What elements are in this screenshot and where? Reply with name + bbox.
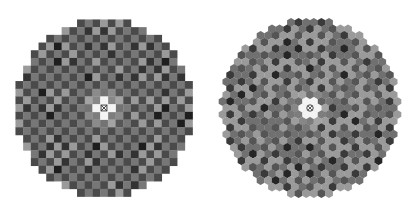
grid-cell: [77, 189, 85, 197]
grid-cell: [123, 181, 131, 189]
grid-cell: [169, 66, 177, 74]
grid-cell: [146, 81, 154, 89]
grid-cell: [100, 73, 108, 81]
grid-cell: [123, 150, 131, 158]
grid-cell: [100, 127, 108, 135]
grid-cell: [46, 58, 54, 66]
grid-cell: [162, 104, 170, 112]
grid-cell: [46, 135, 54, 143]
grid-cell: [116, 181, 124, 189]
grid-cell: [131, 66, 139, 74]
grid-cell: [108, 81, 116, 89]
grid-cell: [85, 73, 93, 81]
grid-cell: [77, 73, 85, 81]
grid-cell: [62, 104, 70, 112]
grid-cell: [54, 158, 62, 166]
grid-cell: [131, 73, 139, 81]
square-grid-image: [0, 0, 206, 211]
grid-cell: [154, 173, 162, 181]
grid-cell: [131, 89, 139, 97]
grid-cell: [116, 104, 124, 112]
grid-cell: [100, 143, 108, 151]
grid-cell: [162, 89, 170, 97]
grid-cell: [62, 143, 70, 151]
grid-cell: [162, 150, 170, 158]
grid-cell: [116, 66, 124, 74]
grid-cell: [100, 19, 108, 27]
grid-cell: [15, 89, 23, 97]
grid-cell: [185, 81, 193, 89]
grid-cell: [62, 27, 70, 35]
grid-cell: [139, 181, 147, 189]
grid-cell: [131, 81, 139, 89]
grid-cell: [139, 150, 147, 158]
grid-cell: [154, 58, 162, 66]
grid-cell: [69, 135, 77, 143]
grid-cell: [23, 81, 31, 89]
grid-cell: [100, 50, 108, 58]
grid-cell: [185, 127, 193, 135]
grid-cell: [92, 50, 100, 58]
grid-cell: [108, 120, 116, 128]
grid-cell: [77, 50, 85, 58]
grid-cell: [69, 127, 77, 135]
grid-cell: [177, 104, 185, 112]
grid-cell: [39, 43, 47, 51]
grid-cell: [177, 120, 185, 128]
grid-cell: [31, 73, 39, 81]
grid-cell: [54, 104, 62, 112]
grid-cell: [162, 127, 170, 135]
grid-cell: [69, 35, 77, 43]
grid-cell: [162, 96, 170, 104]
grid-cell: [46, 81, 54, 89]
grid-cell: [39, 120, 47, 128]
grid-cell: [169, 112, 177, 120]
grid-cell: [146, 73, 154, 81]
grid-cell: [92, 158, 100, 166]
grid-cell: [123, 66, 131, 74]
grid-cell: [123, 50, 131, 58]
grid-cell: [108, 50, 116, 58]
grid-cell: [31, 112, 39, 120]
grid-cell: [162, 120, 170, 128]
grid-cell: [116, 35, 124, 43]
grid-cell: [162, 143, 170, 151]
grid-cell: [123, 27, 131, 35]
grid-cell: [123, 19, 131, 27]
grid-cell: [62, 89, 70, 97]
grid-cell: [146, 35, 154, 43]
grid-cell: [46, 112, 54, 120]
grid-cell: [54, 96, 62, 104]
grid-cell: [54, 127, 62, 135]
grid-cell: [54, 150, 62, 158]
grid-cell: [54, 66, 62, 74]
grid-cell: [85, 96, 93, 104]
grid-cell: [77, 181, 85, 189]
grid-cell: [77, 43, 85, 51]
grid-cell: [100, 27, 108, 35]
grid-cell: [108, 166, 116, 174]
grid-cell: [100, 43, 108, 51]
grid-cell: [54, 35, 62, 43]
grid-cell: [131, 173, 139, 181]
grid-cell: [77, 158, 85, 166]
grid-cell: [146, 120, 154, 128]
grid-cell: [69, 50, 77, 58]
grid-cell: [116, 127, 124, 135]
grid-cell: [131, 96, 139, 104]
grid-cell: [123, 143, 131, 151]
grid-cell: [185, 89, 193, 97]
grid-cell: [85, 181, 93, 189]
grid-cell: [116, 96, 124, 104]
grid-cell: [123, 166, 131, 174]
grid-cell: [108, 112, 116, 120]
grid-cell: [92, 166, 100, 174]
grid-cell: [92, 89, 100, 97]
grid-cell: [92, 112, 100, 120]
grid-cell: [39, 166, 47, 174]
grid-cell: [46, 173, 54, 181]
grid-cell: [69, 158, 77, 166]
grid-cell: [162, 158, 170, 166]
grid-cell: [46, 127, 54, 135]
grid-cell: [54, 120, 62, 128]
